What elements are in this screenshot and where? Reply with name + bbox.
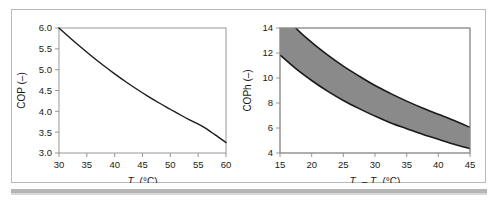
x-axis-tick-label: 35: [82, 159, 93, 170]
x-axis-title-units: (°C): [137, 176, 158, 183]
y-axis-tick-label: 5.0: [39, 64, 52, 75]
x-axis-tick-label: 25: [338, 159, 349, 170]
x-axis-tick-label: 15: [275, 159, 286, 170]
x-axis-tick-label: 45: [137, 159, 148, 170]
cop-line-chart: 303540455055603.03.54.04.55.05.56.0COP (…: [11, 9, 237, 183]
x-axis-tick-label: 20: [306, 159, 317, 170]
x-axis-title-operator: –: [359, 176, 370, 183]
figure-bottom-band-secondary: [11, 193, 487, 195]
coph-band-chart: 15202530354045468101214COPh (–)Tc – Te (…: [237, 9, 486, 183]
y-axis-tick-label: 4.0: [39, 106, 52, 117]
x-axis-title: Tc (°C): [127, 176, 157, 183]
x-axis-tick-label: 40: [433, 159, 444, 170]
y-axis-tick-label: 3.0: [39, 147, 52, 158]
chart-panel-cop: 303540455055603.03.54.04.55.05.56.0COP (…: [11, 9, 237, 183]
x-axis-tick-label: 30: [54, 159, 65, 170]
y-axis-tick-label: 4: [268, 147, 273, 158]
y-axis-tick-label: 4.5: [39, 85, 52, 96]
y-axis-tick-label: 12: [262, 47, 273, 58]
x-axis-tick-label: 60: [221, 159, 232, 170]
x-axis-tick-label: 30: [370, 159, 381, 170]
chart-panel-coph: 15202530354045468101214COPh (–)Tc – Te (…: [237, 9, 486, 183]
y-axis-tick-label: 10: [262, 72, 273, 83]
x-axis-title: Tc – Te (°C): [350, 176, 401, 183]
y-axis-tick-label: 6: [268, 122, 273, 133]
x-axis-tick-label: 40: [109, 159, 120, 170]
y-axis-tick-label: 3.5: [39, 127, 52, 138]
x-axis-title-units: (°C): [380, 176, 401, 183]
plot-area-border: [59, 28, 226, 153]
y-axis-tick-label: 8: [268, 97, 273, 108]
x-axis-tick-label: 50: [165, 159, 176, 170]
y-axis-tick-label: 14: [262, 22, 273, 33]
y-axis-tick-label: 6.0: [39, 22, 52, 33]
y-axis-title: COPh (–): [242, 69, 253, 111]
x-axis-tick-label: 55: [193, 159, 204, 170]
y-axis-tick-label: 5.5: [39, 43, 52, 54]
x-axis-tick-label: 45: [465, 159, 476, 170]
y-axis-title: COP (–): [16, 72, 27, 109]
figure-container: 303540455055603.03.54.04.55.05.56.0COP (…: [0, 0, 499, 206]
x-axis-tick-label: 35: [401, 159, 412, 170]
